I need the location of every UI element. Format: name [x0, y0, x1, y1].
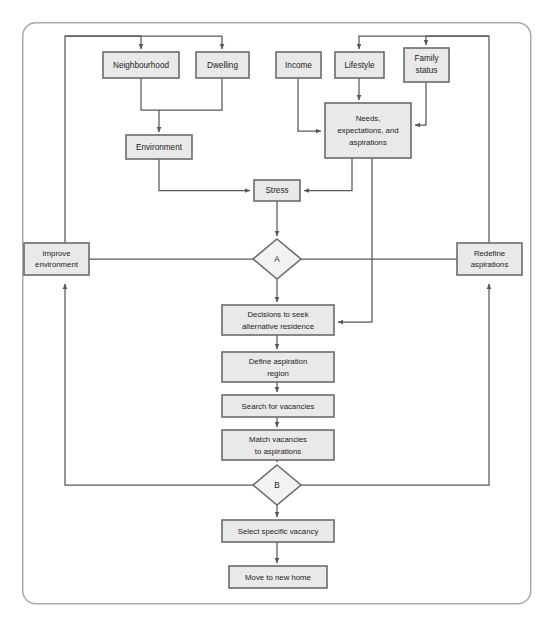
node-family-status-label-line-2: status — [416, 66, 438, 75]
node-select-vacancy-label: Select specific vacancy — [238, 527, 319, 536]
node-match-vacancies[interactable]: Match vacancies to aspirations — [222, 430, 334, 460]
node-define-region-label-line-1: Define aspiration — [249, 357, 308, 366]
node-decision-b[interactable]: B — [253, 465, 301, 505]
edge-family-status-to-needs — [415, 82, 426, 125]
node-environment-label: Environment — [136, 143, 183, 152]
edge-income-to-needs — [298, 78, 321, 131]
node-decisions-seek[interactable]: Decisions to seek alternative residence — [222, 305, 334, 335]
node-family-status-label-line-1: Family — [414, 54, 439, 63]
node-match-vacancies-label-line-1: Match vacancies — [249, 435, 307, 444]
node-income-label: Income — [285, 61, 312, 70]
node-improve-environment-label-line-1: Improve — [42, 249, 70, 258]
node-lifestyle[interactable]: Lifestyle — [335, 52, 384, 78]
node-search-vacancies-label: Search for vacancies — [242, 402, 315, 411]
node-move-home-label: Move to new home — [245, 573, 311, 582]
node-needs[interactable]: Needs, expectations, and aspirations — [325, 103, 411, 158]
edge-dwelling-to-junction — [159, 78, 222, 110]
edge-environment-to-stress — [159, 159, 250, 191]
node-redefine-aspirations-label-line-1: Redefine — [474, 249, 505, 258]
edge-needs-to-decisions-seek — [338, 158, 372, 322]
node-dwelling-label: Dwelling — [207, 61, 238, 70]
node-lifestyle-label: Lifestyle — [344, 61, 374, 70]
node-select-vacancy[interactable]: Select specific vacancy — [222, 520, 334, 542]
node-neighbourhood[interactable]: Neighbourhood — [103, 52, 179, 78]
node-match-vacancies-label-line-2: to aspirations — [255, 447, 301, 456]
node-family-status[interactable]: Family status — [404, 48, 449, 82]
node-improve-environment[interactable]: Improve environment — [24, 243, 89, 275]
node-define-region[interactable]: Define aspiration region — [222, 352, 334, 382]
edge-redefine-aspirations-to-family-status — [426, 36, 489, 45]
node-decision-a-label: A — [274, 255, 280, 264]
node-neighbourhood-label: Neighbourhood — [113, 61, 169, 70]
flowchart-canvas: Neighbourhood Dwelling Income Lifestyle … — [0, 0, 555, 631]
edge-neighbourhood-to-environment — [141, 78, 159, 132]
flowchart-figure: Neighbourhood Dwelling Income Lifestyle … — [0, 0, 555, 631]
node-needs-label-line-3: aspirations — [349, 138, 387, 147]
node-stress-label: Stress — [265, 186, 288, 195]
node-redefine-aspirations[interactable]: Redefine aspirations — [457, 243, 522, 275]
edge-needs-to-stress — [304, 158, 352, 191]
node-redefine-aspirations-label-line-2: aspirations — [471, 260, 509, 269]
node-dwelling[interactable]: Dwelling — [196, 52, 249, 78]
edge-improve-environment-to-dwelling — [65, 36, 222, 49]
node-decisions-seek-label-line-1: Decisions to seek — [247, 310, 308, 319]
node-define-region-label-line-2: region — [267, 369, 289, 378]
node-decisions-seek-label-line-2: alternative residence — [242, 322, 314, 331]
node-layer: Neighbourhood Dwelling Income Lifestyle … — [24, 48, 522, 588]
node-decision-a[interactable]: A — [253, 239, 301, 279]
node-search-vacancies[interactable]: Search for vacancies — [222, 395, 334, 417]
node-needs-label-line-1: Needs, — [356, 114, 381, 123]
node-improve-environment-label-line-2: environment — [35, 260, 79, 269]
node-stress[interactable]: Stress — [254, 180, 300, 201]
node-move-home[interactable]: Move to new home — [229, 566, 327, 588]
node-needs-label-line-2: expectations, and — [337, 126, 398, 135]
node-environment[interactable]: Environment — [126, 135, 192, 159]
node-decision-b-label: B — [274, 481, 280, 490]
node-income[interactable]: Income — [276, 52, 321, 78]
